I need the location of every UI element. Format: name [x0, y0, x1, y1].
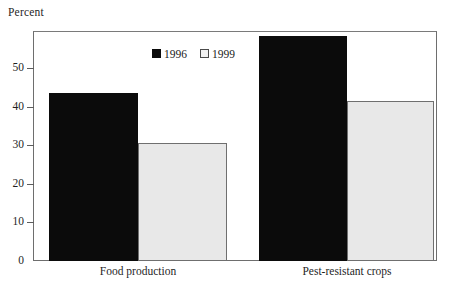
- bar-chart-figure: Percent 50 40 30 20 10 0 1996 1999 Food …: [0, 0, 452, 284]
- y-tick-label-0: 0: [0, 254, 24, 266]
- legend-swatch-dark-icon: [152, 49, 161, 58]
- bar-food-production-1999: [138, 143, 227, 261]
- category-label-pest-resistant-crops: Pest-resistant crops: [302, 265, 391, 277]
- y-tick-label-20: 20: [0, 177, 24, 189]
- legend-entry-1996: 1996: [152, 48, 187, 60]
- y-tick-mark-50: [27, 68, 34, 69]
- y-tick-mark-40: [27, 107, 34, 108]
- y-tick-label-50: 50: [0, 61, 24, 73]
- legend-swatch-light-icon: [200, 49, 209, 58]
- y-tick-label-10: 10: [0, 215, 24, 227]
- category-label-food-production: Food production: [100, 265, 176, 277]
- y-axis-title: Percent: [8, 6, 44, 18]
- plot-area: [34, 32, 436, 261]
- bar-food-production-1996: [49, 93, 138, 261]
- legend-label-1999: 1999: [212, 49, 235, 61]
- y-tick-mark-10: [27, 222, 34, 223]
- legend-entry-1999: 1999: [200, 48, 235, 60]
- legend-label-1996: 1996: [164, 49, 187, 61]
- y-tick-mark-30: [27, 145, 34, 146]
- legend: 1996 1999: [152, 48, 235, 60]
- bar-pest-resistant-crops-1999: [347, 101, 434, 261]
- y-tick-label-30: 30: [0, 138, 24, 150]
- y-tick-label-40: 40: [0, 100, 24, 112]
- y-tick-mark-20: [27, 184, 34, 185]
- bar-pest-resistant-crops-1996: [259, 36, 347, 261]
